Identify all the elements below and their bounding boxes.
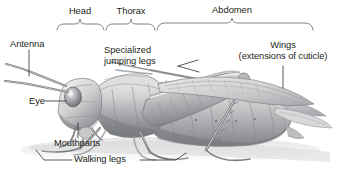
callout-label-eye: Eye	[29, 96, 45, 106]
callout-line-wings-parenthetical: (extensions of cuticle)	[239, 51, 328, 61]
callout-label-antenna: Antenna	[10, 39, 44, 49]
region-label-thorax: Thorax	[117, 6, 146, 16]
callout-label-walking-legs: Walking legs	[74, 154, 126, 164]
callout-line-specialized: Specialized	[104, 45, 151, 55]
antennae	[5, 64, 68, 92]
grasshopper-anatomy-figure: Head Thorax Abdomen Antenna Specialized …	[0, 0, 338, 178]
callout-line-jumping-legs: jumping legs	[104, 56, 156, 66]
leader-jumping-1	[178, 60, 198, 66]
bracket-thorax	[106, 19, 155, 30]
region-brackets	[57, 18, 313, 30]
bracket-head	[57, 19, 104, 30]
abdomen-tip	[286, 126, 304, 139]
compound-eye	[65, 87, 82, 107]
callout-line-wings: Wings	[270, 40, 296, 50]
leader-jumping-2	[178, 66, 199, 72]
region-label-head: Head	[69, 6, 91, 16]
callout-label-mouthparts: Mouthparts	[54, 138, 100, 148]
grasshopper-illustration	[0, 0, 338, 178]
region-label-abdomen: Abdomen	[212, 5, 252, 15]
bracket-abdomen	[157, 18, 313, 30]
